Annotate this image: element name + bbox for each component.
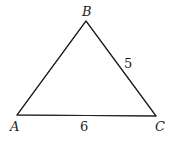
triangle-diagram: B A C 6 5 — [0, 0, 193, 142]
triangle-abc — [17, 21, 156, 116]
side-ac — [17, 115, 156, 116]
vertex-label-b: B — [81, 4, 92, 19]
vertex-label-a: A — [9, 119, 19, 134]
side-label-bc: 5 — [124, 56, 132, 71]
side-ab — [17, 21, 86, 115]
vertex-label-c: C — [155, 119, 165, 134]
side-bc — [86, 21, 156, 116]
side-label-ac: 6 — [80, 119, 88, 134]
